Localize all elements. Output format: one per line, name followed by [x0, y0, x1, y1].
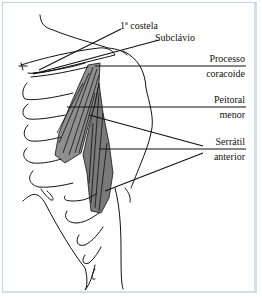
anatomy-figure: 1ª costela Subclávio Processo coracoide …	[2, 2, 257, 293]
rib-7	[65, 211, 99, 223]
clavicle	[21, 48, 115, 74]
costal-margin	[23, 194, 95, 290]
scapula-border	[115, 188, 123, 289]
label-pectoralis-1: Peitoral	[214, 94, 245, 106]
rib-9	[83, 247, 101, 264]
shoulder-contour	[123, 51, 152, 188]
rib-5	[30, 171, 73, 187]
rib-10	[92, 269, 95, 279]
label-coracoid-1: Processo	[209, 53, 245, 65]
leader-serratil-3	[105, 153, 203, 191]
neck-contour	[40, 15, 127, 55]
rib-2	[23, 104, 65, 119]
rib-8	[77, 227, 103, 245]
label-serratus-2: anterior	[214, 151, 245, 163]
label-pectoralis-2: menor	[219, 109, 245, 121]
label-first-rib: 1ª costela	[120, 20, 158, 32]
rib-1	[23, 83, 73, 100]
label-coracoid-2: coracoide	[206, 68, 245, 80]
label-subclavius: Subclávio	[155, 32, 195, 44]
rib-3	[24, 125, 61, 141]
label-serratus-1: Serrátil	[216, 136, 245, 148]
thorax-drawing	[3, 3, 262, 297]
